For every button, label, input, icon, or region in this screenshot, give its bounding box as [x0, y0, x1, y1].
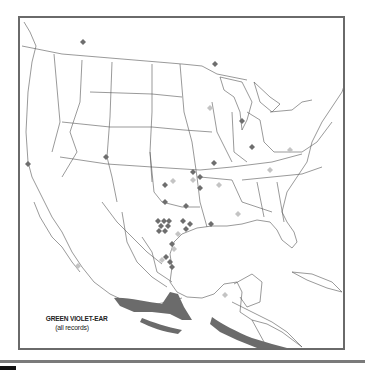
- records-subtitle: (all records): [45, 323, 99, 332]
- record-marker-dark: [155, 218, 161, 224]
- record-marker-dark: [166, 218, 172, 224]
- political-borders: [22, 22, 345, 347]
- record-marker-dark: [103, 154, 109, 160]
- record-marker-dark: [183, 226, 189, 232]
- record-marker-dark: [80, 39, 86, 45]
- record-marker-light: [190, 177, 196, 183]
- record-marker-dark: [187, 221, 193, 227]
- record-marker-dark: [25, 161, 31, 167]
- record-marker-dark: [162, 199, 168, 205]
- record-marker-dark: [211, 160, 217, 166]
- record-marker-light: [207, 105, 213, 111]
- record-marker-dark: [197, 174, 203, 180]
- record-markers: [25, 39, 293, 298]
- record-marker-light: [216, 182, 222, 188]
- record-marker-dark: [239, 118, 245, 124]
- record-marker-light: [170, 178, 176, 184]
- resident-range: [114, 292, 287, 350]
- record-marker-dark: [162, 182, 168, 188]
- species-title: GREEN VIOLET-EAR: [46, 314, 98, 323]
- record-marker-light: [267, 167, 273, 173]
- map-canvas: [20, 18, 345, 350]
- record-marker-dark: [162, 228, 168, 234]
- record-marker-dark: [249, 144, 255, 150]
- record-marker-light: [222, 292, 228, 298]
- record-marker-dark: [180, 218, 186, 224]
- record-marker-light: [235, 211, 241, 217]
- record-marker-dark: [212, 61, 218, 67]
- corner-marker: [0, 366, 16, 370]
- record-marker-dark: [183, 203, 189, 209]
- record-marker-dark: [165, 223, 171, 229]
- range-map: GREEN VIOLET-EAR (all records): [18, 16, 345, 350]
- map-legend: GREEN VIOLET-EAR (all records): [40, 314, 104, 332]
- bottom-divider: [0, 360, 365, 363]
